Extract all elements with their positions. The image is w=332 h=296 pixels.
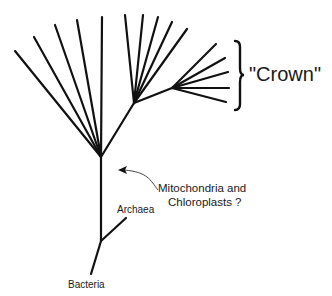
archaea-label: Archaea — [117, 204, 154, 216]
basal-fan — [15, 17, 102, 157]
crown-fan — [172, 44, 229, 102]
trunk — [91, 157, 101, 274]
stem-to-node-2 — [101, 103, 134, 157]
crown-brace — [235, 41, 244, 110]
bacteria-label: Bacteria — [68, 279, 105, 291]
phylogenetic-tree — [0, 0, 332, 296]
archaea-branch — [101, 218, 126, 241]
crown-label: "Crown" — [249, 63, 321, 86]
pointer-arrow — [124, 170, 158, 190]
organelles-label-line2: Chloroplasts ? — [168, 196, 242, 209]
organelles-label-line1: Mitochondria and — [158, 182, 246, 195]
